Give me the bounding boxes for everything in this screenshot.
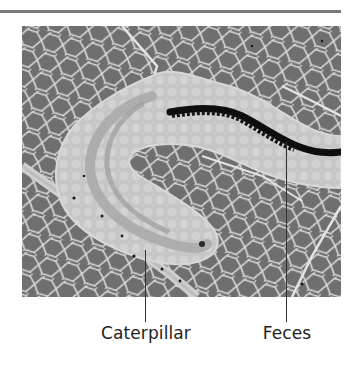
caterpillar-leader-line bbox=[145, 250, 146, 322]
feces-label: Feces bbox=[263, 323, 311, 343]
top-rule bbox=[0, 10, 341, 13]
leaf-photo bbox=[22, 26, 341, 297]
feces-leader-line bbox=[286, 142, 287, 322]
leaf-photo-illustration bbox=[22, 26, 341, 297]
caterpillar-label: Caterpillar bbox=[101, 323, 191, 343]
